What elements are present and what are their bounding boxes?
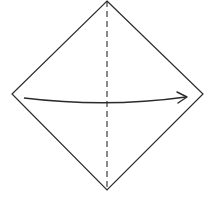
origami-diagram: Origami fold step: fold left corner to r…	[0, 0, 221, 200]
diagram-canvas	[0, 0, 221, 200]
fold-arrow-shaft	[24, 97, 186, 103]
